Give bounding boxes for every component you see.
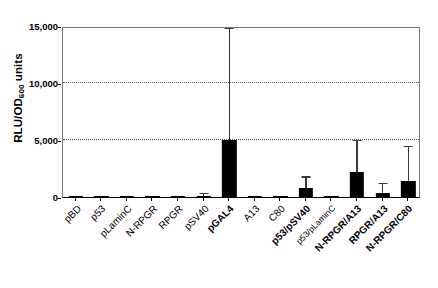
x-axis-tick-mark	[382, 198, 383, 201]
x-axis-tick-mark	[407, 198, 408, 201]
y-axis-tick-label: 0	[0, 193, 58, 203]
bar-slot	[344, 28, 370, 197]
x-axis-tick-label: A13	[241, 203, 261, 223]
y-axis-tick-mark	[58, 27, 61, 28]
error-bar-line	[408, 147, 409, 181]
bar-chart-figure: RLU/OD600 units 05,00010,00015,000 pBDp5…	[0, 0, 438, 288]
bar-slot	[114, 28, 140, 197]
bar	[94, 196, 108, 197]
x-axis-tick-label: pBD	[61, 203, 83, 225]
x-axis-tick-mark	[330, 198, 331, 201]
x-axis-tick-mark	[228, 198, 229, 201]
y-axis-ticks: 05,00010,00015,000	[0, 27, 58, 198]
error-bar-line	[305, 178, 306, 189]
bar-slot	[165, 28, 191, 197]
bar-slot	[140, 28, 166, 197]
x-axis-label-slot: RPGR	[164, 198, 190, 288]
bar	[273, 196, 287, 197]
bar-slot	[89, 28, 115, 197]
x-axis-tick-mark	[75, 198, 76, 201]
x-axis-label-slot: pSV40	[190, 198, 216, 288]
y-axis-tick-mark	[58, 141, 61, 142]
bar-slot	[293, 28, 319, 197]
bar	[171, 196, 185, 197]
y-axis-tick-label: 10,000	[0, 79, 58, 89]
y-axis-tick-mark	[58, 84, 61, 85]
bar	[69, 196, 83, 197]
error-bar-line	[203, 194, 204, 196]
bar	[375, 193, 389, 197]
error-bar-line	[229, 29, 230, 140]
bar-slot	[242, 28, 268, 197]
y-axis-tick-mark	[58, 198, 61, 199]
error-bar-cap	[378, 183, 387, 184]
x-axis-tick-mark	[279, 198, 280, 201]
x-axis-tick-mark	[305, 198, 306, 201]
bar-slot	[268, 28, 294, 197]
x-axis-label-slot: N-RPGR/C80	[394, 198, 420, 288]
x-axis-tick-label: p53	[88, 203, 108, 223]
bar-slot	[191, 28, 217, 197]
x-axis-label-slot: pBD	[62, 198, 88, 288]
bar	[222, 140, 236, 197]
x-axis-tick-mark	[203, 198, 204, 201]
x-axis-label-slot: N-RPGR	[139, 198, 165, 288]
bar	[248, 196, 262, 197]
bar-slot	[216, 28, 242, 197]
error-bar-line	[356, 141, 357, 172]
error-bar-line	[382, 184, 383, 192]
bars-group	[63, 28, 419, 197]
x-axis-labels: pBDp53pLaminCN-RPGRRPGRpSV40pGAL4A13C80p…	[62, 198, 420, 288]
bar	[196, 196, 210, 197]
x-axis-tick-mark	[126, 198, 127, 201]
error-bar-cap	[199, 193, 208, 194]
x-axis-label-slot: pGAL4	[215, 198, 241, 288]
x-axis-tick-label: C80	[267, 203, 288, 224]
x-axis-tick-mark	[356, 198, 357, 201]
bar	[120, 196, 134, 197]
x-axis-label-slot: p53	[88, 198, 114, 288]
x-axis-tick-mark	[151, 198, 152, 201]
y-axis-tick-label: 5,000	[0, 136, 58, 146]
bar	[145, 196, 159, 197]
x-axis-tick-mark	[177, 198, 178, 201]
bar	[299, 188, 313, 197]
plot-area	[62, 27, 420, 198]
error-bar-cap	[353, 140, 362, 141]
bar	[401, 181, 415, 197]
bar	[350, 172, 364, 197]
bar-slot	[319, 28, 345, 197]
bar	[324, 196, 338, 197]
x-axis-tick-mark	[100, 198, 101, 201]
error-bar-cap	[225, 28, 234, 29]
x-axis-tick-mark	[254, 198, 255, 201]
bar-slot	[370, 28, 396, 197]
error-bar-cap	[404, 146, 413, 147]
bar-slot	[395, 28, 421, 197]
x-axis-label-slot: pLaminC	[113, 198, 139, 288]
error-bar-cap	[301, 176, 310, 177]
x-axis-label-slot: A13	[241, 198, 267, 288]
bar-slot	[63, 28, 89, 197]
y-axis-tick-label: 15,000	[0, 22, 58, 32]
